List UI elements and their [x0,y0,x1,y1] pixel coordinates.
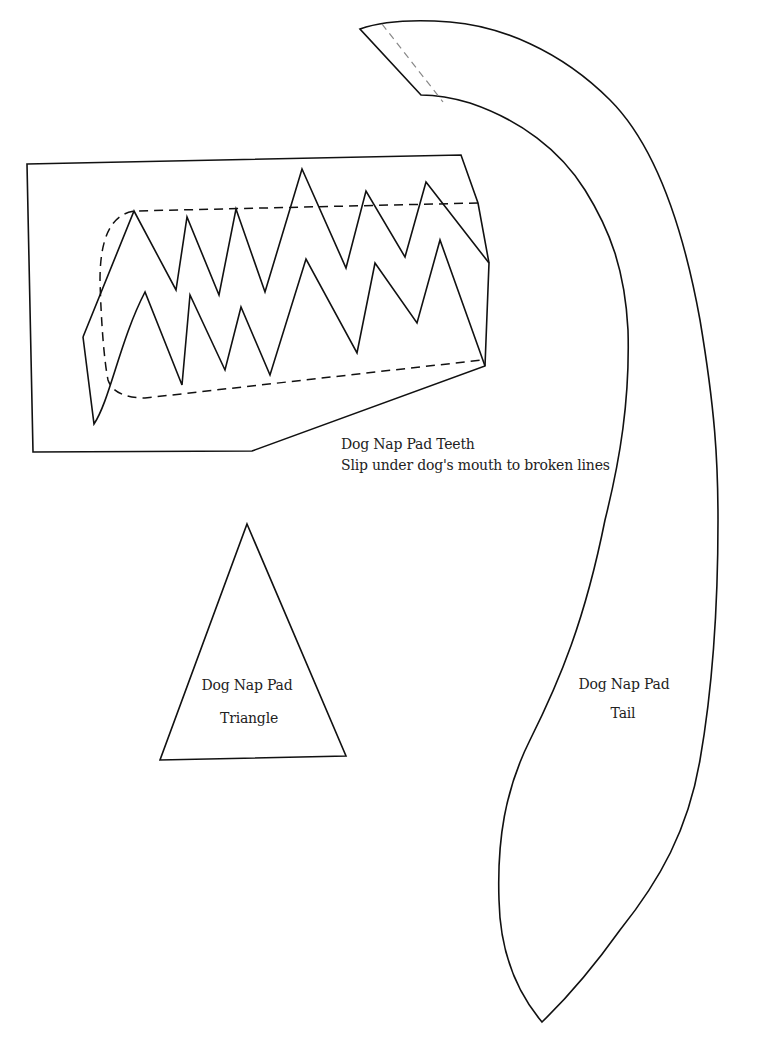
upper-teeth-zigzag [83,169,489,337]
teeth-instruction: Slip under dog's mouth to broken lines [341,457,610,473]
triangle-label-line2: Triangle [220,710,278,726]
triangle-label-line1: Dog Nap Pad [202,677,293,693]
teeth-title: Dog Nap Pad Teeth [341,436,475,452]
tail-label-line1: Dog Nap Pad [579,676,670,692]
pattern-canvas [0,0,765,1041]
tail-label-line2: Tail [611,705,636,721]
mouth-broken-line [100,203,482,398]
tail-outline [360,21,718,1022]
teeth-piece [27,155,489,452]
tail-piece [360,21,718,1022]
lower-teeth-zigzag [83,240,485,424]
